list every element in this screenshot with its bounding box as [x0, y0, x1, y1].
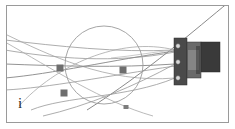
wire-10: [7, 42, 153, 116]
wire-marker-lower-center: [124, 105, 129, 109]
panel-label: i: [18, 96, 22, 111]
scene-illustration: [7, 6, 228, 122]
wire-marker-upper-left: [57, 65, 64, 72]
mounting-bracket: [174, 38, 220, 85]
bracket-mount-point-bottom: [176, 76, 181, 81]
bracket-mount-point-top: [176, 44, 181, 49]
bracket-rear-block: [201, 42, 220, 72]
wire-marker-lower-left: [61, 90, 68, 97]
bracket-mount-point-middle: [176, 60, 181, 65]
bracket-shadow-strip: [196, 46, 200, 74]
wire-marker-center: [120, 67, 127, 74]
figure-panel: i: [0, 0, 235, 129]
sphere-outline: [65, 26, 143, 104]
wire-1: [7, 40, 175, 51]
wire-8: [31, 78, 175, 110]
